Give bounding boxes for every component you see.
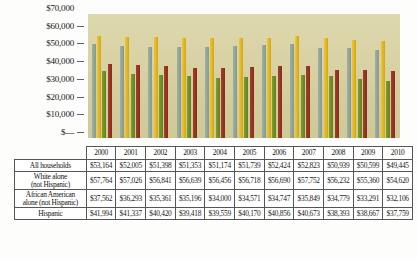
- chart-page: $70,000$60,000$50,000$40,000$30,000$20,0…: [0, 0, 417, 259]
- table-cell: $38,667: [353, 208, 383, 220]
- bar-2: [216, 78, 220, 138]
- bar-group: [230, 14, 258, 138]
- bar-0: [290, 44, 294, 138]
- table-body: All households$53,164$52,005$51,398$51,3…: [15, 160, 413, 220]
- bar-3: [391, 71, 395, 138]
- column-header-2007: 2007: [294, 147, 324, 160]
- bar-2: [244, 77, 248, 138]
- data-table: 2000200120022003200420052006200720082009…: [14, 146, 413, 220]
- bar-1: [267, 38, 271, 138]
- table-cell: $51,739: [235, 160, 265, 172]
- bar-2: [102, 71, 106, 138]
- column-header-2000: 2000: [86, 147, 116, 160]
- bar-0: [205, 47, 209, 138]
- table-cell: $37,562: [86, 190, 116, 208]
- bar-1: [352, 40, 356, 138]
- table-cell: $32,106: [383, 190, 413, 208]
- table-cell: $39,559: [205, 208, 235, 220]
- bar-group: [315, 14, 343, 138]
- row-label-line1: Hispanic: [15, 210, 86, 218]
- bar-2: [131, 74, 135, 138]
- table-cell: $56,456: [205, 172, 235, 190]
- bar-group: [258, 14, 286, 138]
- bar-group: [173, 14, 201, 138]
- row-label-0: All households: [15, 160, 87, 172]
- table-cell: $51,398: [146, 160, 176, 172]
- bar-3: [108, 64, 112, 138]
- table-cell: $35,361: [146, 190, 176, 208]
- bar-3: [363, 70, 367, 138]
- bar-3: [164, 66, 168, 138]
- table-row: All households$53,164$52,005$51,398$51,3…: [15, 160, 413, 172]
- table-cell: $41,994: [86, 208, 116, 220]
- bar-group: [201, 14, 229, 138]
- bar-3: [278, 66, 282, 138]
- bar-3: [335, 70, 339, 138]
- table-row: African Americanalone (not Hispanic)$37,…: [15, 190, 413, 208]
- bar-0: [375, 50, 379, 138]
- y-axis-tick-label: $40,000: [46, 57, 74, 66]
- y-axis-tick-mark: [77, 79, 84, 80]
- table-cell: $55,360: [353, 172, 383, 190]
- bar-1: [97, 36, 101, 138]
- y-axis-tick-mark: [77, 114, 84, 115]
- table-cell: $56,232: [324, 172, 354, 190]
- column-header-2009: 2009: [353, 147, 383, 160]
- table-cell: $52,424: [264, 160, 294, 172]
- table-cell: $41,337: [116, 208, 146, 220]
- bar-group: [145, 14, 173, 138]
- y-axis-tick-label: $20,000: [46, 93, 74, 102]
- table-cell: $50,599: [353, 160, 383, 172]
- column-header-2010: 2010: [383, 147, 413, 160]
- bar-2: [301, 75, 305, 139]
- table-cell: $51,353: [175, 160, 205, 172]
- table-cell: $40,170: [235, 208, 265, 220]
- bar-0: [92, 44, 96, 138]
- bar-0: [318, 48, 322, 138]
- row-label-3: Hispanic: [15, 208, 87, 220]
- y-axis-tick-label: $50,000: [46, 39, 74, 48]
- row-label-2: African Americanalone (not Hispanic): [15, 190, 87, 208]
- bar-group: [372, 14, 400, 138]
- bar-1: [182, 38, 186, 138]
- table-cell: $35,849: [294, 190, 324, 208]
- y-axis: $70,000$60,000$50,000$40,000$30,000$20,0…: [0, 8, 86, 142]
- bar-0: [120, 46, 124, 138]
- bar-1: [295, 36, 299, 138]
- table-cell: $57,026: [116, 172, 146, 190]
- y-axis-tick-mark: [77, 97, 84, 98]
- y-axis-tick-label: $10,000: [46, 110, 74, 119]
- y-axis-tick-label: $30,000: [46, 75, 74, 84]
- y-axis-tick-label: $—: [61, 128, 74, 137]
- bar-2: [358, 79, 362, 138]
- table-cell: $57,764: [86, 172, 116, 190]
- bar-2: [386, 81, 390, 138]
- table-cell: $56,718: [235, 172, 265, 190]
- table-cell: $57,752: [294, 172, 324, 190]
- table-cell: $52,823: [294, 160, 324, 172]
- table-cell: $37,759: [383, 208, 413, 220]
- bar-1: [239, 38, 243, 138]
- row-label-line2: (not Hispanic): [15, 181, 86, 189]
- bar-chart: $70,000$60,000$50,000$40,000$30,000$20,0…: [0, 0, 417, 150]
- table-cell: $34,571: [235, 190, 265, 208]
- column-header-2002: 2002: [146, 147, 176, 160]
- bar-1: [210, 38, 214, 138]
- table-cell: $38,393: [324, 208, 354, 220]
- bar-3: [193, 68, 197, 138]
- column-header-2003: 2003: [175, 147, 205, 160]
- table-cell: $56,690: [264, 172, 294, 190]
- bar-3: [250, 67, 254, 138]
- table-row: Hispanic$41,994$41,337$40,420$39,418$39,…: [15, 208, 413, 220]
- table-cell: $56,841: [146, 172, 176, 190]
- table-cell: $54,620: [383, 172, 413, 190]
- table-cell: $53,164: [86, 160, 116, 172]
- table-cell: $39,418: [175, 208, 205, 220]
- row-label-1: White alone(not Hispanic): [15, 172, 87, 190]
- bar-group: [88, 14, 116, 138]
- table-cell: $40,856: [264, 208, 294, 220]
- table-cell: $40,420: [146, 208, 176, 220]
- bar-1: [125, 37, 129, 138]
- bar-2: [187, 76, 191, 138]
- y-axis-tick-mark: [77, 61, 84, 62]
